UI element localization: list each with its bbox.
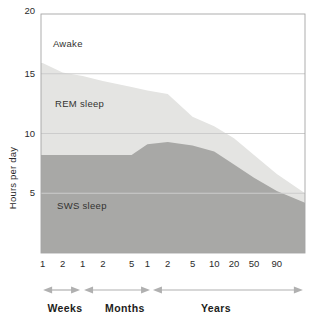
- chart-svg: 5101520 1212512510205090 AwakeREM sleepS…: [0, 0, 317, 324]
- age-span-weeks-arrowhead-right: [71, 287, 80, 294]
- age-span-weeks-label: Weeks: [47, 302, 82, 314]
- x-tick-labels-layer: 1212512510205090: [40, 258, 282, 269]
- label-sws-sleep: SWS sleep: [57, 200, 107, 211]
- label-rem-sleep: REM sleep: [55, 98, 104, 109]
- y-tick-label-5: 5: [30, 187, 35, 198]
- age-span-months-arrowhead-left: [84, 287, 93, 294]
- x-tick-label-years-10: 10: [209, 258, 220, 269]
- x-tick-label-years-90: 90: [271, 258, 282, 269]
- y-tick-label-15: 15: [24, 68, 35, 79]
- x-tick-label-months-2: 2: [100, 258, 105, 269]
- area-fills-layer: [41, 63, 305, 253]
- label-awake: Awake: [53, 38, 83, 49]
- x-tick-label-years-5: 5: [190, 258, 195, 269]
- x-tick-label-weeks-1: 1: [40, 258, 45, 269]
- area-sws-sleep: [41, 142, 305, 253]
- age-span-months-label: Months: [105, 302, 145, 314]
- x-tick-label-years-50: 50: [249, 258, 260, 269]
- age-span-weeks-arrowhead-left: [43, 287, 52, 294]
- x-tick-label-months-1: 1: [80, 258, 85, 269]
- age-span-years-arrowhead-left: [153, 287, 162, 294]
- age-unit-arrows-layer: [43, 287, 303, 294]
- x-tick-label-years-1: 1: [145, 258, 150, 269]
- y-tick-label-10: 10: [24, 128, 35, 139]
- age-span-years-arrowhead-right: [294, 287, 303, 294]
- x-tick-label-years-2: 2: [165, 258, 170, 269]
- age-span-months-arrowhead-right: [141, 287, 150, 294]
- sleep-stages-by-age-chart: 5101520 1212512510205090 AwakeREM sleepS…: [0, 0, 317, 324]
- age-span-years-label: Years: [201, 302, 231, 314]
- age-unit-labels-layer: WeeksMonthsYears: [47, 302, 231, 314]
- y-tick-labels-layer: 5101520: [24, 5, 35, 198]
- y-axis-title: Hours per day: [7, 147, 18, 209]
- x-tick-label-months-5: 5: [129, 258, 134, 269]
- x-tick-label-years-20: 20: [229, 258, 240, 269]
- x-tick-label-weeks-2: 2: [60, 258, 65, 269]
- y-tick-label-20: 20: [24, 5, 35, 16]
